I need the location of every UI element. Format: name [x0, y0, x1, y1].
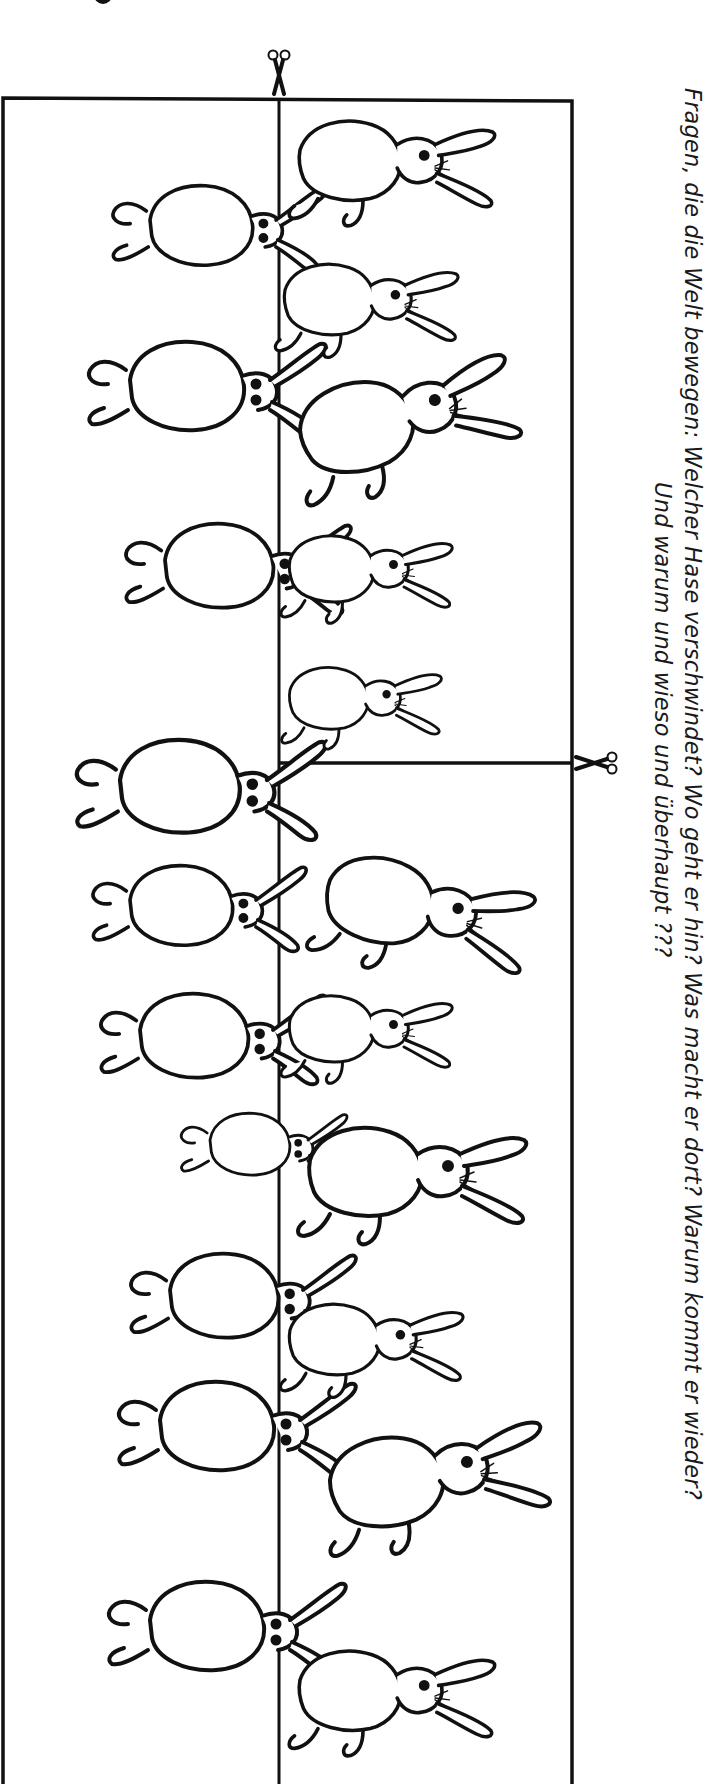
scissors-icon — [576, 753, 617, 774]
scissors-icon — [269, 51, 290, 95]
worksheet-caption-line-1: Fragen, die die Welt bewegen: Welcher Ha… — [680, 88, 706, 1500]
rabbit-puzzle-art — [0, 0, 714, 1784]
worksheet-page: Fragen, die die Welt bewegen: Welcher Ha… — [0, 0, 714, 1784]
right-panel-rabbits — [275, 121, 557, 1756]
worksheet-caption-line-2: Und warum und wieso und überhaupt ??? — [650, 482, 676, 957]
